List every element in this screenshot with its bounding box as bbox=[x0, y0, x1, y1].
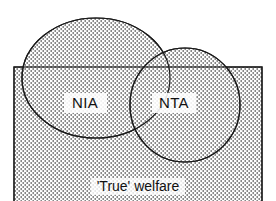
venn-diagram-canvas: NIA NTA 'True' welfare bbox=[0, 0, 276, 201]
nta-label-group: NTA bbox=[152, 93, 196, 113]
true-welfare-label: 'True' welfare bbox=[97, 178, 180, 194]
nia-label: NIA bbox=[72, 94, 98, 111]
venn-diagram-figure: NIA NTA 'True' welfare bbox=[0, 0, 276, 201]
nta-label: NTA bbox=[159, 94, 189, 111]
nia-label-group: NIA bbox=[64, 93, 107, 113]
universe-label-group: 'True' welfare bbox=[91, 178, 185, 195]
